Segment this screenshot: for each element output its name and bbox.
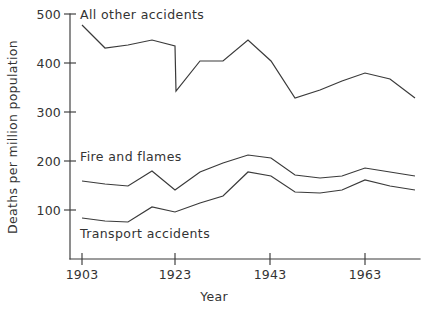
x-axis-title: Year (199, 289, 228, 304)
y-tick-label-100: 100 (37, 203, 61, 218)
chart-container: 500 400 300 200 100 1903 1923 1943 1963 … (0, 0, 426, 309)
x-tick-label-1963: 1963 (349, 267, 382, 282)
x-tick-label-1943: 1943 (254, 267, 287, 282)
y-tick-label-300: 300 (37, 105, 61, 120)
series-label-transport-accidents: Transport accidents (79, 226, 210, 241)
series-line-all-other-accidents (82, 25, 415, 98)
y-tick-label-500: 500 (37, 7, 61, 22)
series-label-all-other-accidents: All other accidents (80, 7, 204, 22)
y-tick-label-200: 200 (37, 154, 61, 169)
x-tick-label-1903: 1903 (66, 267, 99, 282)
x-tick-label-1923: 1923 (159, 267, 192, 282)
series-line-transport-accidents (82, 172, 415, 222)
y-axis-tick-labels: 500 400 300 200 100 (37, 7, 61, 218)
x-axis-tick-labels: 1903 1923 1943 1963 (66, 267, 382, 282)
series-label-fire-and-flames: Fire and flames (80, 149, 182, 164)
y-axis-title: Deaths per million population (5, 40, 20, 234)
line-chart: 500 400 300 200 100 1903 1923 1943 1963 … (0, 0, 426, 309)
y-tick-label-400: 400 (37, 56, 61, 71)
